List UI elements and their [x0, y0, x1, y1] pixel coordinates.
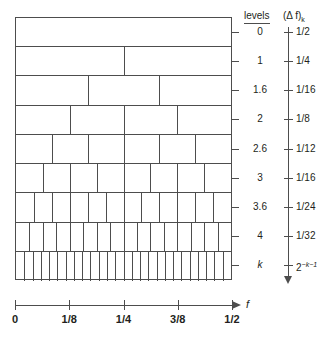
- band-divider: [159, 135, 160, 163]
- delta-f-tick: [284, 236, 293, 237]
- band-divider: [52, 193, 53, 221]
- delta-f-tick: [284, 178, 293, 179]
- frequency-axis-label: f: [246, 298, 249, 310]
- band-row: [16, 164, 231, 193]
- frequency-tick-label: 1/2: [212, 313, 252, 326]
- band-divider: [56, 223, 57, 251]
- delta-f-tick: [284, 32, 293, 33]
- level-label: 2.6: [243, 143, 277, 154]
- delta-f-value-exponent: −k−1: [302, 261, 318, 268]
- frequency-axis-arrowhead: [232, 301, 241, 309]
- band-row: [16, 106, 231, 135]
- row-tick: [232, 207, 239, 208]
- band-divider: [213, 193, 214, 221]
- band-row: [16, 18, 231, 47]
- delta-f-value-label: 1/2: [296, 26, 310, 37]
- band-divider: [49, 252, 50, 281]
- band-divider: [70, 223, 71, 251]
- band-divider: [206, 252, 207, 281]
- band-divider: [124, 164, 125, 192]
- wavelet-tiling-figure: levels (Δ f)k 011.622.633.64k 1/21/41/16…: [0, 0, 327, 337]
- delta-f-header-text: (Δ f): [283, 10, 301, 21]
- level-label: 4: [243, 230, 277, 241]
- delta-f-column-header: (Δ f)k: [283, 10, 305, 26]
- band-row: [16, 76, 231, 105]
- band-divider: [41, 252, 42, 281]
- band-divider: [181, 252, 182, 281]
- frequency-tiling-grid: [15, 17, 232, 280]
- frequency-tick-label: 3/8: [158, 313, 198, 326]
- row-tick: [232, 178, 239, 179]
- delta-f-axis-arrowhead: [284, 276, 292, 284]
- row-tick: [232, 265, 239, 266]
- delta-f-axis-line: [288, 27, 289, 279]
- band-divider: [198, 252, 199, 281]
- frequency-tick: [124, 300, 125, 310]
- band-divider: [191, 223, 192, 251]
- frequency-tick-label: 1/8: [49, 313, 89, 326]
- band-divider: [70, 106, 71, 134]
- band-divider: [132, 252, 133, 281]
- frequency-tick: [15, 300, 16, 310]
- band-divider: [52, 135, 53, 163]
- band-divider: [204, 223, 205, 251]
- band-divider: [140, 252, 141, 281]
- levels-column-header: levels: [244, 10, 270, 24]
- band-divider: [124, 106, 125, 134]
- band-divider: [115, 252, 116, 281]
- delta-f-tick: [284, 149, 293, 150]
- band-divider: [141, 193, 142, 221]
- band-divider: [88, 193, 89, 221]
- delta-f-header-subscript: k: [301, 16, 305, 23]
- band-row: [16, 193, 231, 222]
- band-divider: [124, 223, 125, 251]
- band-divider: [90, 252, 91, 281]
- band-divider: [43, 164, 44, 192]
- band-divider: [150, 164, 151, 192]
- row-tick: [232, 119, 239, 120]
- band-divider: [195, 193, 196, 221]
- band-row: [16, 252, 231, 281]
- band-divider: [82, 252, 83, 281]
- band-divider: [190, 252, 191, 281]
- band-divider: [148, 252, 149, 281]
- band-divider: [83, 223, 84, 251]
- band-divider: [223, 252, 224, 281]
- delta-f-value-label: 1/4: [296, 55, 310, 66]
- band-row: [16, 135, 231, 164]
- delta-f-value-label: 1/16: [296, 84, 315, 95]
- band-row: [16, 47, 231, 76]
- delta-f-value-label: 2−k−1: [296, 259, 317, 273]
- band-divider: [177, 106, 178, 134]
- band-divider: [157, 252, 158, 281]
- band-divider: [99, 252, 100, 281]
- band-divider: [204, 164, 205, 192]
- delta-f-value-label: 1/8: [296, 113, 310, 124]
- row-tick: [232, 90, 239, 91]
- frequency-tick: [232, 300, 233, 310]
- band-divider: [70, 193, 71, 221]
- band-divider: [150, 223, 151, 251]
- delta-f-tick: [284, 207, 293, 208]
- band-divider: [164, 223, 165, 251]
- band-divider: [110, 223, 111, 251]
- band-divider: [88, 76, 89, 104]
- row-tick: [232, 236, 239, 237]
- row-tick: [232, 32, 239, 33]
- level-label: 1: [243, 55, 277, 66]
- band-divider: [173, 252, 174, 281]
- band-divider: [124, 135, 125, 163]
- delta-f-tick: [284, 90, 293, 91]
- level-label: 2: [243, 113, 277, 124]
- band-row: [16, 223, 231, 252]
- band-divider: [159, 193, 160, 221]
- band-divider: [214, 252, 215, 281]
- row-tick: [232, 149, 239, 150]
- band-divider: [124, 193, 125, 221]
- band-divider: [33, 252, 34, 281]
- frequency-tick: [178, 300, 179, 310]
- band-divider: [29, 223, 30, 251]
- delta-f-tick: [284, 265, 293, 266]
- delta-f-value-label: 1/12: [296, 143, 315, 154]
- level-label: k: [243, 259, 277, 270]
